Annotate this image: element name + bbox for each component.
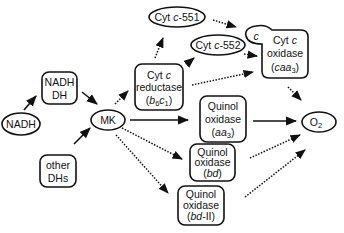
node-nadh-dh-line2: DH: [52, 89, 67, 101]
pathway-diagram: NADH NADH DH other DHs MK Cyt c reductas…: [0, 0, 344, 233]
node-cyt-c-oxidase-line3: (caa3): [271, 61, 299, 75]
node-quinol-oxidase-aa3: Quinol oxidase (aa3): [200, 96, 246, 142]
node-cyt-c-oxidase-line1: Cyt c: [273, 34, 298, 46]
node-cyt-c-reductase-line3: (b6c1): [146, 94, 172, 108]
node-nadh-dh-line1: NADH: [45, 76, 75, 88]
edge-mk-to-reductase: [115, 91, 128, 104]
edge-reductase-to-c551: [155, 38, 163, 58]
node-cyt-c-reductase-line2: reductase: [136, 81, 182, 93]
node-aa3-line2: oxidase: [205, 113, 241, 125]
node-cyt-c-oxidase-line2: oxidase: [267, 47, 303, 59]
cyt-c-oxidase-tab-label: c: [253, 30, 259, 42]
node-cyt-c-oxidase: c Cyt c oxidase (caa3): [246, 26, 308, 79]
edge-c552-to-oxidase: [244, 54, 257, 56]
node-other-dhs-line2: DHs: [48, 172, 68, 184]
node-cyt-c551: Cyt c-551: [149, 7, 205, 27]
node-nadh-dh: NADH DH: [42, 72, 77, 104]
node-cyt-c-reductase-line1: Cyt c: [147, 69, 172, 81]
edge-bd2-to-o2: [245, 150, 305, 197]
node-cyt-c551-label: Cyt c-551: [155, 11, 200, 23]
edge-mk-to-bd2: [116, 135, 168, 193]
edge-reductase-to-c552: [188, 58, 194, 63]
node-nadh-label: NADH: [6, 118, 36, 130]
node-other-dhs: other DHs: [40, 155, 76, 187]
node-quinol-oxidase-bd2: Quinol oxidase (bd-II): [178, 186, 224, 225]
node-nadh: NADH: [2, 113, 40, 135]
edge-mk-to-bd: [122, 128, 182, 159]
node-aa3-line3: (aa3): [212, 126, 235, 140]
node-cyt-c552-label: Cyt c-552: [196, 39, 241, 51]
node-mk: MK: [91, 110, 125, 130]
node-cyt-c-reductase: Cyt c reductase (b6c1): [135, 64, 183, 110]
node-quinol-oxidase-bd: Quinol oxidase (bd): [190, 144, 235, 181]
node-o2: O2: [302, 112, 336, 132]
node-bd2-line3: (bd-II): [187, 210, 215, 222]
edge-bd-to-o2: [250, 135, 300, 158]
edge-otherdhs-to-mk: [74, 128, 90, 144]
edge-oxidase-to-o2: [288, 87, 301, 100]
edge-c551-to-oxidase: [213, 20, 236, 27]
node-other-dhs-line1: other: [46, 159, 70, 171]
edge-reductase-to-oxidase: [192, 72, 253, 85]
node-bd-line3: (bd): [203, 167, 222, 179]
node-cyt-c552: Cyt c-552: [191, 35, 245, 55]
node-mk-label: MK: [100, 114, 116, 126]
edge-nadhdh-to-mk: [82, 92, 97, 104]
edge-nadh-to-nadhdh: [24, 96, 36, 110]
node-aa3-line1: Quinol: [208, 100, 238, 112]
